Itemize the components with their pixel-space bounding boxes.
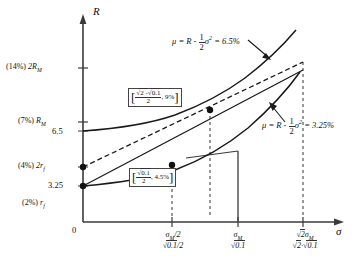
xtick-mid-radicand: 0.1 (234, 240, 245, 250)
ytick-rf: (2%) rf (22, 199, 45, 209)
ytick-3point25: 3.25 (48, 181, 63, 190)
equation-lower-lhs: μ = R - (262, 120, 286, 130)
point-label-upper-num-post: 0.1 (151, 88, 161, 97)
point-label-lower: [ √0.1 2 , 4.5%] (129, 166, 176, 187)
xtick-right-dot: · (301, 241, 303, 250)
ytick-Rm-pct: (7%) (18, 116, 34, 125)
x-axis-label: σ (336, 226, 341, 237)
equation-upper-rhs: = 6.5% (214, 36, 240, 46)
point-label-upper-den: 2 (135, 98, 161, 105)
equation-upper-exp: 2 (209, 35, 212, 41)
equation-upper: μ = R - 1 2 σ2 = 6.5% (172, 33, 240, 51)
ytick-2Rm-pct: (14%) (6, 62, 26, 71)
point-label-lower-close: ] (169, 170, 173, 185)
y-axis (80, 14, 87, 222)
point-label-upper-val: , 9% (161, 93, 174, 101)
xtick-sigma-m-half: σM/2 √0.1/2 (146, 230, 200, 250)
ytick-rf-pct: (2%) (22, 198, 38, 207)
xtick-half-div: /2 (174, 230, 180, 239)
xtick-right-radicand2: 0.1 (306, 240, 317, 250)
point-label-upper: [ √2 -√0.1 2 , 9%] (128, 86, 182, 107)
ytick-Rm-sub: M (41, 121, 46, 127)
xtick-half-bot-div: /2 (177, 241, 183, 250)
equation-upper-lhs: μ = R - (172, 36, 196, 46)
origin-label: 0 (72, 226, 76, 235)
point-label-lower-val: , 4.5% (151, 173, 169, 181)
capital-market-line-dashed (83, 62, 303, 167)
ytick-2rf-sub: f (43, 166, 45, 172)
ytick-rf-sub: f (43, 203, 45, 209)
point-label-upper-num-pre: 2 - (139, 88, 148, 97)
xtick-sqrt2-sigma-m: √2σM √2·√0.1 (274, 230, 336, 250)
y-axis-label: R (93, 6, 100, 17)
point-label-upper-close: ] (174, 90, 178, 105)
ytick-Rm: (7%) RM (18, 117, 46, 127)
ytick-2rf: (4%) 2rf (18, 162, 45, 172)
equation-lower: μ = R - 1 2 σ2 = 3.25% (262, 117, 334, 135)
equation-lower-exp: 2 (299, 119, 302, 125)
ytick-2Rm-sym: 2R (28, 62, 37, 71)
point-tangency-upper (207, 107, 213, 113)
arrow-upper-equation (248, 40, 271, 60)
ytick-6point5: 6.5 (52, 127, 63, 136)
xtick-half-radicand: 0.1 (166, 240, 177, 250)
point-rf (80, 183, 86, 189)
ytick-2Rm: (14%) 2RM (6, 63, 42, 73)
equation-lower-rhs: = 3.25% (304, 120, 334, 130)
xtick-sigma-m: σM √0.1 (214, 230, 262, 250)
point-label-lower-num: 0.1 (140, 168, 150, 177)
ytick-2Rm-sub: M (37, 67, 42, 73)
point-label-lower-den: 2 (136, 178, 151, 185)
x-axis (83, 219, 344, 226)
point-2rf (80, 164, 86, 170)
indifference-curve-chart: R σ 0 (14%) 2RM (7%) RM 6.5 (4%) 2rf 3.2… (0, 0, 357, 262)
ytick-2rf-pct: (4%) (18, 161, 34, 170)
